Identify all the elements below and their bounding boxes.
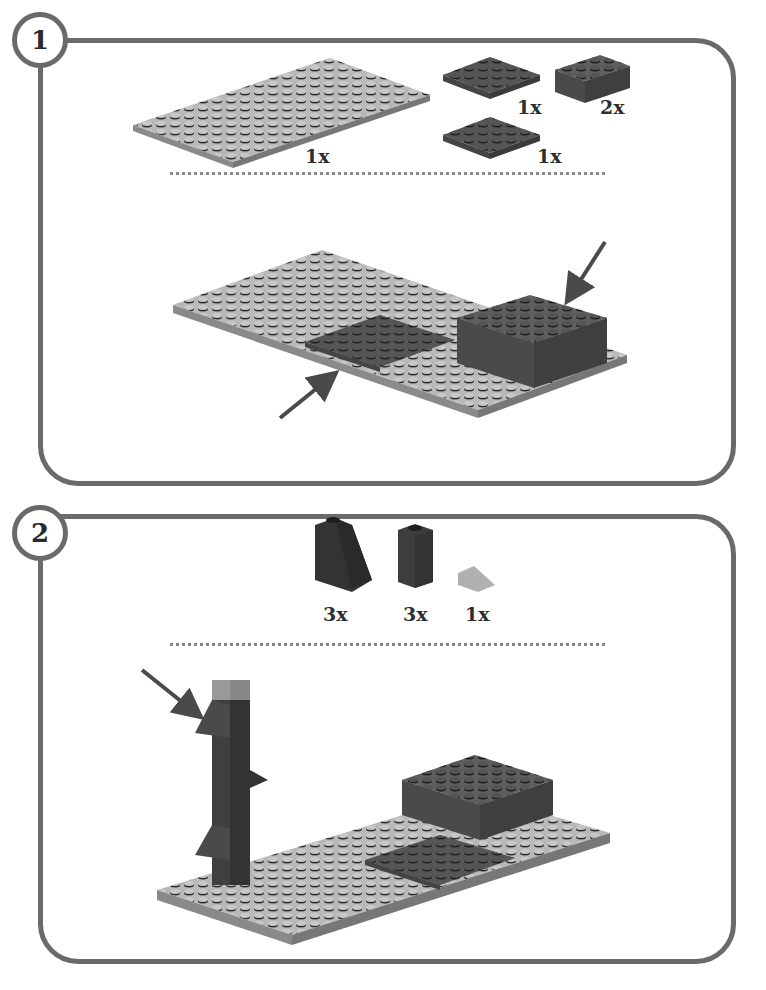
part-dark-plate-4x4-icon (443, 57, 540, 99)
qty-label: 1x (537, 145, 562, 167)
arrow-icon (142, 670, 192, 710)
part-dark-plate-4x4-second-icon (443, 117, 540, 159)
qty-label: 1x (517, 96, 542, 118)
separator-dots (170, 643, 605, 646)
step-2-assembly-illustration (142, 670, 610, 945)
separator-dots (170, 172, 605, 175)
illustrations (0, 0, 766, 990)
qty-label: 1x (305, 145, 330, 167)
arrow-icon (280, 380, 327, 418)
qty-label: 3x (323, 603, 348, 625)
qty-label: 3x (403, 603, 428, 625)
part-dark-brick-1x1-icon (398, 524, 433, 588)
step-1-assembly-illustration (173, 242, 627, 418)
qty-label: 2x (600, 96, 625, 118)
part-dark-slope-icon (315, 517, 372, 592)
part-large-plate-icon (133, 58, 430, 168)
part-light-slope-icon (458, 566, 495, 592)
qty-label: 1x (465, 603, 490, 625)
arrow-icon (573, 242, 605, 292)
